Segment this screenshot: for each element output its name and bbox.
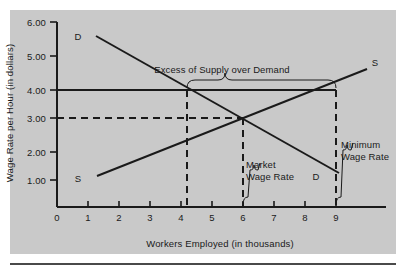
chart-canvas — [0, 0, 406, 275]
x-tick-label-8: 8 — [302, 212, 307, 223]
demand-curve-label-top: D — [75, 31, 82, 42]
minimum-wage-rate-line1: Minimum — [341, 139, 389, 151]
market-wage-rate-line2: Wage Rate — [246, 171, 294, 183]
x-tick-label-4: 4 — [178, 212, 183, 223]
y-tick-label-2: 2.00 — [13, 147, 46, 158]
market-wage-rate-annotation: Market Wage Rate — [246, 159, 294, 183]
x-tick-label-6: 6 — [240, 212, 245, 223]
x-tick-label-1: 1 — [85, 212, 90, 223]
demand-curve — [96, 36, 339, 173]
x-tick-label-7: 7 — [271, 212, 276, 223]
x-tick-label-9: 9 — [333, 212, 338, 223]
excess-supply-annotation: Excess of Supply over Demand — [154, 64, 289, 76]
x-axis-title: Workers Employed (in thousands) — [146, 238, 294, 249]
minimum-wage-rate-line2: Wage Rate — [341, 151, 389, 163]
supply-curve-label-bottom: S — [75, 173, 81, 184]
y-tick-label-3: 3.00 — [13, 113, 46, 124]
supply-curve-label-top: S — [372, 57, 378, 68]
x-tick-label-5: 5 — [209, 212, 214, 223]
y-tick-label-6: 6.00 — [13, 17, 46, 28]
demand-curve-label-bottom: D — [313, 171, 320, 182]
y-tick-label-5: 5.00 — [13, 51, 46, 62]
y-axis-title: Wage Rate per Hour (in dollars) — [4, 44, 15, 182]
x-tick-label-2: 2 — [116, 212, 121, 223]
y-tick-label-1: 1.00 — [13, 175, 46, 186]
figure-container: 6.00 5.00 4.00 3.00 2.00 1.00 0 1 2 3 4 … — [0, 0, 406, 275]
y-tick-label-4: 4.00 — [13, 85, 46, 96]
x-tick-label-3: 3 — [147, 212, 152, 223]
minimum-wage-rate-annotation: Minimum Wage Rate — [341, 139, 389, 163]
y-axis-ticks — [50, 22, 57, 180]
supply-curve — [97, 69, 367, 176]
market-wage-rate-line1: Market — [246, 159, 294, 171]
x-tick-label-0: 0 — [54, 212, 59, 223]
